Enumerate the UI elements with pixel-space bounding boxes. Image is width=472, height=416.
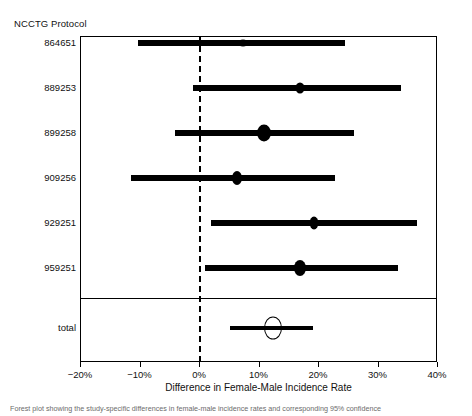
plot-border-right bbox=[436, 36, 437, 362]
plot-area: 864651889253899258909256929251959251tota… bbox=[80, 36, 437, 362]
summary-separator-line bbox=[80, 298, 437, 299]
x-axis-tick-label: 30% bbox=[368, 369, 387, 380]
point-estimate-marker bbox=[257, 125, 271, 142]
point-estimate-marker bbox=[309, 217, 318, 230]
x-axis: −20%−10%0%10%20%30%40% bbox=[80, 362, 437, 363]
column-header-ncctg-protocol: NCCTG Protocol bbox=[14, 18, 87, 29]
x-axis-tick bbox=[140, 362, 141, 367]
point-estimate-marker bbox=[239, 40, 248, 47]
x-axis-tick-label: −20% bbox=[68, 369, 93, 380]
forest-plot-figure: NCCTG Protocol 8646518892538992589092569… bbox=[0, 0, 472, 416]
point-estimate-marker bbox=[296, 83, 305, 94]
study-row-label: 929251 bbox=[44, 217, 76, 228]
x-axis-tick bbox=[199, 362, 200, 367]
x-axis-tick-label: 20% bbox=[308, 369, 327, 380]
point-estimate-marker bbox=[294, 260, 306, 276]
x-axis-tick-label: 0% bbox=[192, 369, 206, 380]
study-row-label: 909256 bbox=[44, 172, 76, 183]
x-axis-tick-label: −10% bbox=[127, 369, 152, 380]
figure-caption: Forest plot showing the study-specific d… bbox=[10, 404, 464, 414]
x-axis-tick bbox=[378, 362, 379, 367]
x-axis-tick bbox=[437, 362, 438, 367]
summary-estimate-marker bbox=[264, 317, 282, 340]
study-row-label: 899258 bbox=[44, 127, 76, 138]
x-axis-tick bbox=[318, 362, 319, 367]
x-axis-tick-label: 10% bbox=[249, 369, 268, 380]
summary-row-label: total bbox=[58, 322, 76, 333]
study-row-label: 959251 bbox=[44, 262, 76, 273]
study-row-label: 889253 bbox=[44, 82, 76, 93]
plot-border-left bbox=[80, 36, 81, 362]
x-axis-tick bbox=[259, 362, 260, 367]
study-row-label: 864651 bbox=[44, 37, 76, 48]
x-axis-label: Difference in Female-Male Incidence Rate bbox=[80, 382, 437, 393]
x-axis-tick-label: 40% bbox=[427, 369, 446, 380]
x-axis-tick bbox=[80, 362, 81, 367]
point-estimate-marker bbox=[232, 171, 242, 185]
plot-border-top bbox=[80, 36, 437, 37]
